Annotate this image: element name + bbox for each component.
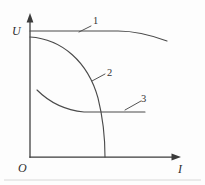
curve-1-label: 1 [93, 16, 98, 27]
curve-2-leader-line [92, 74, 105, 81]
x-axis-label: I [178, 163, 182, 175]
uiv-characteristic-figure: U O I 1 2 3 [0, 0, 205, 185]
x-axis-arrowhead [172, 154, 182, 161]
curve-3-leader-line [125, 101, 141, 110]
curve-3-path [37, 90, 145, 112]
curve-2-label: 2 [107, 68, 112, 79]
curve-2-path [30, 37, 105, 157]
y-axis-arrowhead [27, 13, 34, 23]
curve-3-label: 3 [141, 94, 146, 105]
figure-canvas [0, 0, 205, 185]
y-axis-label: U [12, 25, 21, 37]
curve-1-path [30, 31, 167, 41]
origin-label: O [18, 162, 27, 174]
